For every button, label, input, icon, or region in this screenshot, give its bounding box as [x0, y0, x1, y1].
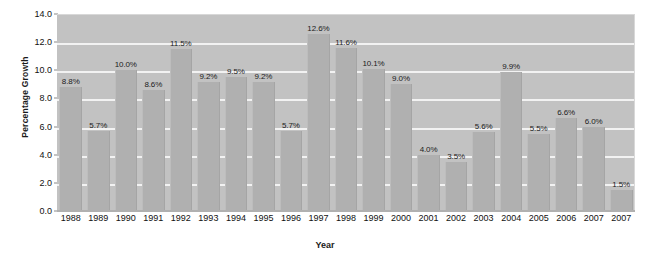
x-axis-tick: 1992 [171, 213, 191, 223]
x-axis-tick: 1990 [116, 213, 136, 223]
bar-slot: 9.9% [497, 15, 525, 211]
bar-value-label: 9.2% [254, 72, 272, 81]
bar-slot: 12.6% [305, 15, 333, 211]
bar-value-label: 12.6% [307, 24, 329, 33]
bar[interactable] [390, 84, 413, 211]
x-axis-tick: 2002 [446, 213, 466, 223]
plot-area: 8.8%5.7%10.0%8.6%11.5%9.2%9.5%9.2%5.7%12… [57, 14, 635, 211]
x-axis-line [57, 210, 635, 212]
x-axis-tick: 1998 [336, 213, 356, 223]
bar-value-label: 6.0% [585, 117, 603, 126]
bar-value-label: 8.6% [144, 80, 162, 89]
bar-value-label: 3.5% [447, 152, 465, 161]
bar-slot: 5.7% [85, 15, 113, 211]
x-axis-tick: 2004 [501, 213, 521, 223]
y-axis-tick: 14.0 [6, 9, 52, 19]
y-axis-tick: 2.0 [6, 178, 52, 188]
y-axis-tick: 4.0 [6, 150, 52, 160]
bar-slot: 11.6% [332, 15, 360, 211]
bar-slot: 5.5% [525, 15, 553, 211]
bar[interactable] [527, 134, 550, 211]
bar-slot: 8.6% [140, 15, 168, 211]
bar[interactable] [197, 82, 220, 211]
bar-slot: 5.7% [277, 15, 305, 211]
bar-value-label: 6.6% [557, 108, 575, 117]
bar-slot: 10.0% [112, 15, 140, 211]
bar-slot: 8.8% [57, 15, 85, 211]
bar[interactable] [170, 49, 193, 211]
bar[interactable] [445, 162, 468, 211]
x-axis-tick: 1993 [198, 213, 218, 223]
bar-value-label: 10.1% [362, 59, 384, 68]
bar[interactable] [610, 190, 633, 211]
x-axis-tick: 2007 [584, 213, 604, 223]
y-axis-tick: 6.0 [6, 122, 52, 132]
bar-slot: 9.0% [387, 15, 415, 211]
bar-series: 8.8%5.7%10.0%8.6%11.5%9.2%9.5%9.2%5.7%12… [57, 15, 634, 211]
y-axis-tick: 0.0 [6, 206, 52, 216]
bar[interactable] [500, 72, 523, 211]
x-axis-tick: 1996 [281, 213, 301, 223]
x-axis-tick: 2001 [419, 213, 439, 223]
bar[interactable] [555, 118, 578, 211]
y-axis-tick: 12.0 [6, 37, 52, 47]
bar-slot: 1.5% [607, 15, 635, 211]
bar[interactable] [142, 90, 165, 211]
bar-slot: 3.5% [442, 15, 470, 211]
bar-slot: 11.5% [167, 15, 195, 211]
bar-slot: 5.6% [470, 15, 498, 211]
bar[interactable] [582, 127, 605, 211]
x-axis-tick: 2000 [391, 213, 411, 223]
bar[interactable] [280, 131, 303, 211]
x-axis-tick: 2005 [529, 213, 549, 223]
y-axis-tick: 10.0 [6, 65, 52, 75]
bar[interactable] [362, 69, 385, 211]
y-axis-tick: 8.0 [6, 93, 52, 103]
bar-value-label: 9.2% [199, 72, 217, 81]
bar-slot: 6.6% [552, 15, 580, 211]
bar-value-label: 5.6% [475, 122, 493, 131]
bar-slot: 10.1% [360, 15, 388, 211]
x-axis-tick: 1997 [308, 213, 328, 223]
x-axis-tick: 2007 [611, 213, 631, 223]
bar-value-label: 11.6% [335, 38, 357, 47]
y-axis-tick-labels: 0.02.04.06.08.010.012.014.0 [6, 0, 52, 261]
bar-value-label: 5.7% [282, 121, 300, 130]
x-axis-tick-labels: 1988198919901991199219931994199519961997… [57, 213, 635, 231]
bar[interactable] [417, 155, 440, 211]
x-axis-tick: 2006 [556, 213, 576, 223]
bar[interactable] [307, 34, 330, 211]
x-axis-tick: 1999 [364, 213, 384, 223]
bar-value-label: 10.0% [115, 60, 137, 69]
x-axis-tick: 1994 [226, 213, 246, 223]
bar[interactable] [87, 131, 110, 211]
x-axis-tick: 1995 [253, 213, 273, 223]
bar-slot: 9.5% [222, 15, 250, 211]
bar[interactable] [252, 82, 275, 211]
bar-slot: 9.2% [195, 15, 223, 211]
bar[interactable] [335, 48, 358, 211]
bar-value-label: 11.5% [170, 39, 192, 48]
bar-value-label: 5.7% [89, 121, 107, 130]
bar-value-label: 8.8% [62, 77, 80, 86]
bar-value-label: 9.0% [392, 74, 410, 83]
bar-value-label: 9.5% [227, 67, 245, 76]
bar-value-label: 9.9% [502, 62, 520, 71]
bar[interactable] [59, 87, 82, 211]
x-axis-tick: 1991 [143, 213, 163, 223]
bar-value-label: 5.5% [530, 124, 548, 133]
bar-slot: 4.0% [415, 15, 443, 211]
bar-slot: 6.0% [580, 15, 608, 211]
x-axis-tick: 2003 [474, 213, 494, 223]
bar[interactable] [115, 70, 138, 211]
x-axis-tick: 1989 [88, 213, 108, 223]
x-axis-tick: 1988 [61, 213, 81, 223]
x-axis-title: Year [0, 240, 650, 250]
bar-slot: 9.2% [250, 15, 278, 211]
bar-value-label: 4.0% [420, 145, 438, 154]
bar[interactable] [472, 132, 495, 211]
chart-figure: Percentage Growth 0.02.04.06.08.010.012.… [0, 0, 650, 261]
bar[interactable] [225, 77, 248, 211]
bar-value-label: 1.5% [612, 180, 630, 189]
